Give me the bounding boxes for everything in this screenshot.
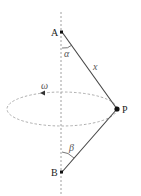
label-A: A bbox=[51, 27, 59, 38]
point-A bbox=[60, 31, 63, 34]
point-B bbox=[60, 171, 63, 174]
string-AP bbox=[62, 32, 117, 109]
particle-P bbox=[114, 106, 119, 111]
rotation-arrow-icon bbox=[40, 91, 45, 96]
diagram-canvas: A B P α β x ω bbox=[0, 0, 141, 196]
label-x: x bbox=[92, 61, 98, 72]
label-alpha: α bbox=[64, 48, 70, 59]
string-BP bbox=[62, 109, 117, 172]
label-P: P bbox=[122, 104, 128, 115]
circle-of-motion bbox=[7, 92, 117, 126]
label-B: B bbox=[51, 167, 58, 178]
label-beta: β bbox=[68, 142, 74, 153]
label-omega: ω bbox=[41, 80, 48, 91]
